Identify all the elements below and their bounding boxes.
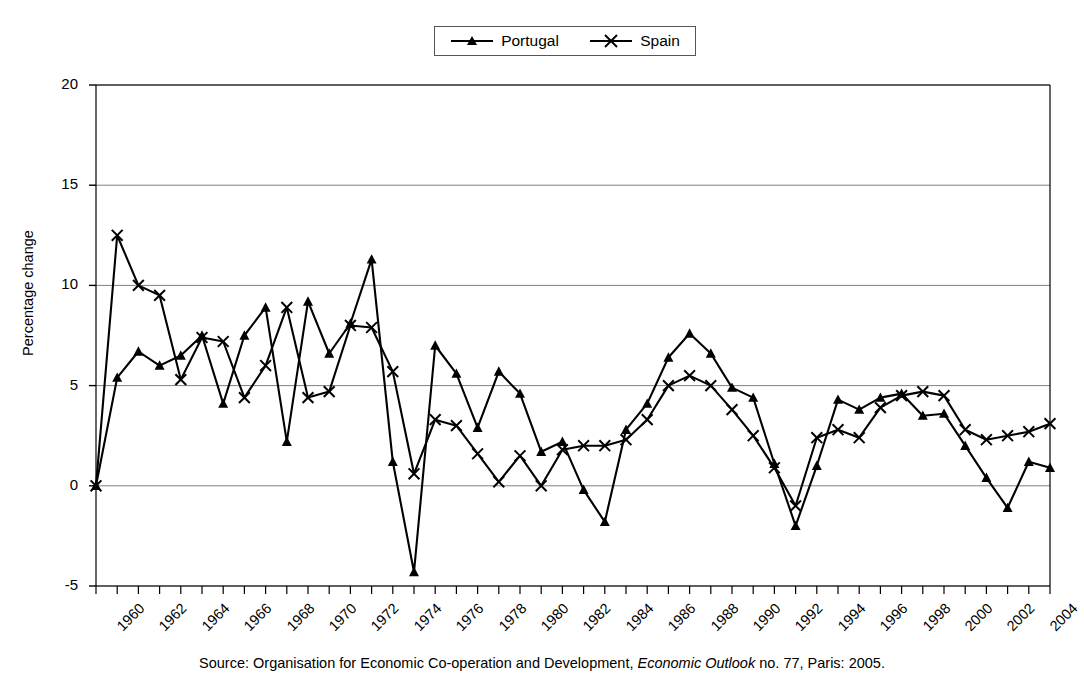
plot-area bbox=[0, 0, 1084, 691]
data-point-spain bbox=[260, 360, 271, 371]
source-suffix: no. 77, Paris: 2005. bbox=[755, 655, 885, 671]
data-point-portugal bbox=[557, 437, 567, 446]
data-point-portugal bbox=[388, 457, 398, 466]
data-point-spain bbox=[833, 424, 844, 435]
data-point-portugal bbox=[685, 328, 695, 337]
series-line-portugal bbox=[96, 259, 1050, 572]
data-point-spain bbox=[875, 402, 886, 413]
data-point-portugal bbox=[854, 404, 864, 413]
data-point-portugal bbox=[536, 447, 546, 456]
data-point-portugal bbox=[303, 296, 313, 305]
data-point-spain bbox=[790, 500, 801, 511]
y-tick-label: 15 bbox=[38, 175, 78, 192]
data-point-spain bbox=[472, 448, 483, 459]
data-point-spain bbox=[727, 404, 738, 415]
data-point-portugal bbox=[812, 461, 822, 470]
source-italic-title: Economic Outlook bbox=[638, 655, 756, 671]
data-point-portugal bbox=[367, 254, 377, 263]
data-point-spain bbox=[430, 414, 441, 425]
data-point-portugal bbox=[791, 521, 801, 530]
data-point-spain bbox=[515, 450, 526, 461]
data-point-spain bbox=[960, 424, 971, 435]
data-point-spain bbox=[748, 430, 759, 441]
data-point-portugal bbox=[409, 567, 419, 576]
data-point-portugal bbox=[748, 392, 758, 401]
data-point-portugal bbox=[642, 398, 652, 407]
data-point-spain bbox=[642, 414, 653, 425]
data-point-portugal bbox=[218, 398, 228, 407]
data-point-spain bbox=[239, 392, 250, 403]
data-point-spain bbox=[684, 370, 695, 381]
y-tick-label: 0 bbox=[38, 476, 78, 493]
chart-figure: Portugal Spain Percentage change 2015105… bbox=[0, 0, 1084, 691]
data-point-spain bbox=[811, 432, 822, 443]
data-point-portugal bbox=[494, 366, 504, 375]
source-prefix: Source: Organisation for Economic Co-ope… bbox=[199, 655, 637, 671]
data-point-portugal bbox=[430, 340, 440, 349]
y-tick-label: 10 bbox=[38, 275, 78, 292]
data-point-portugal bbox=[833, 394, 843, 403]
y-tick-label: 5 bbox=[38, 376, 78, 393]
data-point-spain bbox=[854, 432, 865, 443]
data-point-portugal bbox=[473, 422, 483, 431]
y-tick-label: 20 bbox=[38, 75, 78, 92]
source-note: Source: Organisation for Economic Co-ope… bbox=[0, 655, 1084, 671]
y-tick-label: -5 bbox=[38, 576, 78, 593]
data-point-portugal bbox=[133, 346, 143, 355]
data-point-portugal bbox=[261, 302, 271, 311]
data-point-portugal bbox=[1024, 457, 1034, 466]
data-point-portugal bbox=[282, 437, 292, 446]
